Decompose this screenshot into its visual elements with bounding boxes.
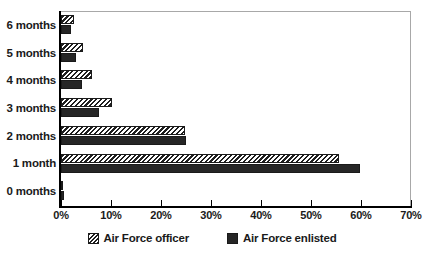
bar-group	[61, 178, 411, 206]
bar-group	[61, 40, 411, 68]
x-axis-tick	[111, 200, 112, 207]
bar-officer	[61, 126, 185, 135]
x-axis-tick	[61, 200, 62, 207]
y-axis-label: 2 months	[0, 130, 56, 142]
x-axis-tick-label: 0%	[38, 209, 84, 221]
x-axis-tick	[211, 200, 212, 207]
y-axis-label: 0 months	[0, 185, 56, 197]
bar-officer	[61, 181, 63, 190]
x-axis-tick-label: 70%	[388, 209, 424, 221]
bar-officer	[61, 98, 112, 107]
x-axis-tick-label: 50%	[288, 209, 334, 221]
x-axis-tick	[261, 200, 262, 207]
bar-enlisted	[61, 136, 186, 145]
x-axis-tick-label: 20%	[138, 209, 184, 221]
plot-area	[61, 12, 411, 206]
bar-enlisted	[61, 108, 99, 117]
bar-officer	[61, 15, 74, 24]
legend-swatch-enlisted-icon	[227, 233, 238, 244]
bar-officer	[61, 154, 339, 163]
bar-enlisted	[61, 25, 71, 34]
x-axis-tick	[161, 200, 162, 207]
legend-label-enlisted: Air Force enlisted	[243, 232, 337, 244]
x-axis-tick-label: 40%	[238, 209, 284, 221]
x-axis-tick-label: 10%	[88, 209, 134, 221]
y-axis-label: 1 month	[0, 157, 56, 169]
legend-label-officer: Air Force officer	[104, 232, 189, 244]
y-axis-label: 5 months	[0, 47, 56, 59]
y-axis-label: 4 months	[0, 74, 56, 86]
bar-group	[61, 151, 411, 179]
bar-group	[61, 123, 411, 151]
bar-group	[61, 67, 411, 95]
legend-swatch-officer-icon	[88, 233, 99, 244]
bar-officer	[61, 70, 92, 79]
legend-item-officer: Air Force officer	[88, 232, 189, 244]
x-axis-tick-label: 30%	[188, 209, 234, 221]
bar-enlisted	[61, 53, 76, 62]
x-axis-tick	[411, 200, 412, 207]
legend-item-enlisted: Air Force enlisted	[227, 232, 337, 244]
bar-officer	[61, 43, 83, 52]
bar-enlisted	[61, 191, 64, 200]
x-axis-tick-label: 60%	[338, 209, 384, 221]
bar-chart: 0%10%20%30%40%50%60%70% 0 months1 month2…	[0, 0, 424, 255]
bar-group	[61, 12, 411, 40]
bar-enlisted	[61, 164, 360, 173]
y-axis-label: 3 months	[0, 102, 56, 114]
bar-enlisted	[61, 80, 82, 89]
x-axis-tick	[361, 200, 362, 207]
y-axis-label: 6 months	[0, 19, 56, 31]
chart-legend: Air Force officer Air Force enlisted	[0, 232, 424, 244]
bar-group	[61, 95, 411, 123]
x-axis-tick	[311, 200, 312, 207]
